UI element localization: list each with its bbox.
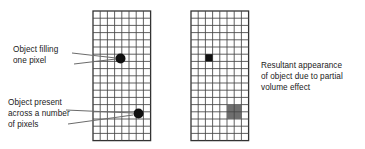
object-dot-lower <box>134 109 144 119</box>
label-object-across-pixels: Object present across a number of pixels <box>8 97 98 131</box>
label-object-filling-one-pixel: Object filling one pixel <box>13 44 95 66</box>
image-black-pixel <box>205 54 212 61</box>
object-grid <box>93 11 151 141</box>
label-resultant-appearance: Resultant appearance of object due to pa… <box>261 60 363 94</box>
partial-volume-effect-diagram: Object filling one pixel Object present … <box>0 0 365 149</box>
object-dot-upper <box>116 54 126 64</box>
image-grid <box>191 11 249 141</box>
